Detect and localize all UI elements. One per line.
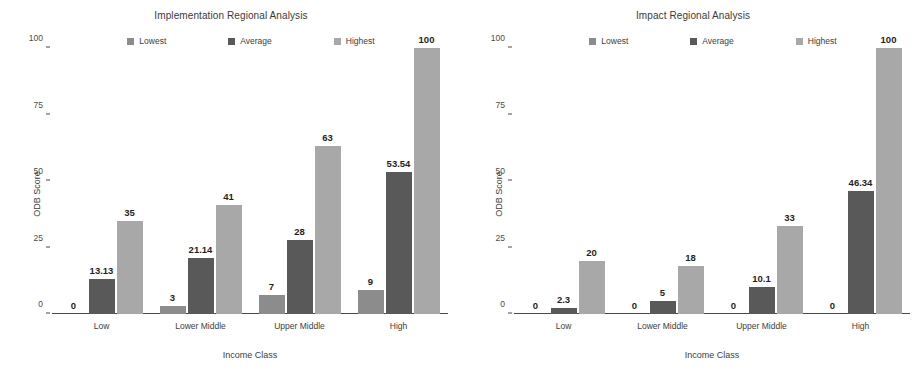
bar-group: 0518Lower Middle — [613, 48, 712, 314]
bar-value-label: 0 — [71, 300, 76, 311]
legend-item-lowest: Lowest — [127, 36, 166, 46]
bar-group: 72863Upper Middle — [250, 48, 349, 314]
bar-slot: 100 — [414, 48, 440, 314]
bar-average[interactable]: 5 — [650, 301, 676, 314]
bar-group: 046.34100High — [811, 48, 910, 314]
x-axis-tick-label: High — [349, 321, 448, 331]
legend-item-average: Average — [228, 36, 272, 46]
legend-item-average: Average — [690, 36, 734, 46]
bar-group-bars: 72863 — [250, 48, 349, 314]
x-axis-tick-label: Low — [514, 321, 613, 331]
plot-area: 0255075100 013.1335Low321.1441Lower Midd… — [52, 48, 448, 314]
bar-slot: 46.34 — [848, 48, 874, 314]
bar-highest[interactable]: 100 — [414, 48, 440, 314]
bar-average[interactable]: 13.13 — [89, 279, 115, 314]
bar-slot: 20 — [579, 48, 605, 314]
y-axis-tick-label: 25 — [496, 233, 514, 243]
bar-average[interactable]: 21.14 — [188, 258, 214, 314]
bar-value-label: 5 — [660, 287, 665, 298]
bar-slot: 0 — [721, 48, 747, 314]
bar-slot: 2.3 — [551, 48, 577, 314]
bar-slot: 0 — [523, 48, 549, 314]
bar-slot: 0 — [622, 48, 648, 314]
bar-value-label: 9 — [368, 276, 373, 287]
y-axis-tick-mark — [46, 47, 50, 48]
bar-group: 013.1335Low — [52, 48, 151, 314]
legend-swatch-highest-icon — [796, 38, 803, 45]
bar-slot: 13.13 — [89, 48, 115, 314]
y-axis-tick-label: 50 — [34, 166, 52, 176]
bar-highest[interactable]: 35 — [117, 221, 143, 314]
legend-label-lowest: Lowest — [601, 36, 628, 46]
bar-average[interactable]: 10.1 — [749, 287, 775, 314]
bar-group-bars: 02.320 — [514, 48, 613, 314]
y-axis-tick-label: 0 — [500, 299, 514, 309]
bar-slot: 35 — [117, 48, 143, 314]
bar-value-label: 13.13 — [90, 265, 114, 276]
legend-label-highest: Highest — [808, 36, 837, 46]
bar-value-label: 35 — [124, 207, 135, 218]
bar-value-label: 18 — [685, 252, 696, 263]
bar-highest[interactable]: 100 — [876, 48, 902, 314]
bar-lowest[interactable]: 7 — [259, 295, 285, 314]
x-axis-label: Income Class — [514, 350, 910, 360]
bar-lowest[interactable]: 3 — [160, 306, 186, 314]
legend: Lowest Average Highest — [462, 36, 924, 46]
legend-item-highest: Highest — [334, 36, 375, 46]
legend-item-lowest: Lowest — [589, 36, 628, 46]
bar-group-bars: 953.54100 — [349, 48, 448, 314]
y-axis-tick-mark — [508, 47, 512, 48]
x-axis-tick-label: Upper Middle — [712, 321, 811, 331]
bar-group: 953.54100High — [349, 48, 448, 314]
bar-value-label: 3 — [170, 292, 175, 303]
bar-slot: 3 — [160, 48, 186, 314]
bar-highest[interactable]: 20 — [579, 261, 605, 314]
bar-group-bars: 321.1441 — [151, 48, 250, 314]
legend-swatch-average-icon — [690, 38, 697, 45]
bar-value-label: 20 — [586, 247, 597, 258]
bar-slot: 63 — [315, 48, 341, 314]
bar-highest[interactable]: 18 — [678, 266, 704, 314]
bar-value-label: 0 — [632, 300, 637, 311]
bar-slot: 0 — [820, 48, 846, 314]
bar-average[interactable]: 2.3 — [551, 308, 577, 314]
bar-slot: 28 — [287, 48, 313, 314]
bar-value-label: 21.14 — [189, 244, 213, 255]
bar-slot: 100 — [876, 48, 902, 314]
bar-group-bars: 013.1335 — [52, 48, 151, 314]
x-axis-tick-label: Upper Middle — [250, 321, 349, 331]
bar-groups: 013.1335Low321.1441Lower Middle72863Uppe… — [52, 48, 448, 314]
y-axis-tick-mark — [508, 246, 512, 247]
bar-slot: 18 — [678, 48, 704, 314]
bar-slot: 10.1 — [749, 48, 775, 314]
legend-item-highest: Highest — [796, 36, 837, 46]
bar-lowest[interactable]: 9 — [358, 290, 384, 314]
bar-value-label: 46.34 — [849, 177, 873, 188]
bar-average[interactable]: 46.34 — [848, 191, 874, 314]
bar-average[interactable]: 53.54 — [386, 172, 412, 314]
bar-highest[interactable]: 33 — [777, 226, 803, 314]
bar-average[interactable]: 28 — [287, 240, 313, 314]
y-axis-tick-mark — [508, 180, 512, 181]
bar-slot: 0 — [61, 48, 87, 314]
bar-highest[interactable]: 63 — [315, 146, 341, 314]
bar-slot: 33 — [777, 48, 803, 314]
y-axis-tick-label: 75 — [496, 100, 514, 110]
legend-swatch-lowest-icon — [589, 38, 596, 45]
y-axis-tick-mark — [46, 180, 50, 181]
bar-highest[interactable]: 41 — [216, 205, 242, 314]
bar-value-label: 2.3 — [557, 294, 570, 305]
y-axis-tick-mark — [46, 113, 50, 114]
legend-swatch-average-icon — [228, 38, 235, 45]
legend-swatch-lowest-icon — [127, 38, 134, 45]
bar-groups: 02.320Low0518Lower Middle010.133Upper Mi… — [514, 48, 910, 314]
y-axis-label: ODB Score — [32, 171, 42, 217]
y-axis-tick-label: 0 — [38, 299, 52, 309]
bar-slot: 9 — [358, 48, 384, 314]
bar-value-label: 100 — [881, 34, 897, 45]
x-axis-tick-label: High — [811, 321, 910, 331]
x-axis-tick-label: Lower Middle — [151, 321, 250, 331]
x-axis-label: Income Class — [52, 350, 448, 360]
bar-slot: 21.14 — [188, 48, 214, 314]
bar-value-label: 0 — [533, 300, 538, 311]
